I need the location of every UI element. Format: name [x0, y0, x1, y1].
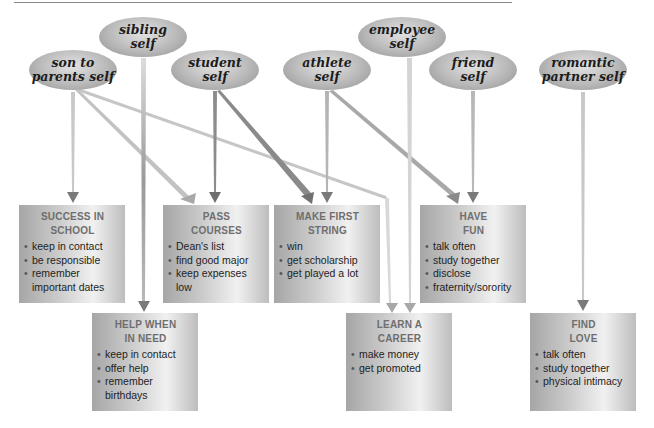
goal-pass-courses: PASSCOURSES Dean's list find good major … [163, 205, 269, 303]
arrow-student-to-pass [213, 91, 217, 192]
self-label-line1: son to [52, 56, 95, 70]
goal-title: FINDLOVE [535, 318, 632, 346]
self-sibling: sibling self [99, 17, 187, 57]
self-label-line2: self [202, 70, 227, 84]
self-label-line2: parents self [32, 70, 115, 84]
goal-item: talk often [535, 348, 632, 362]
arrow-son-to-pass [75, 90, 189, 198]
goal-title: MAKE FIRSTSTRING [279, 210, 376, 238]
goal-title: PASSCOURSES [168, 210, 265, 238]
goal-item: find good major [168, 254, 265, 268]
self-label-line2: self [460, 70, 485, 84]
self-label-line2: self [130, 37, 155, 51]
goal-item: offer help [97, 362, 194, 376]
self-label-line1: romantic [551, 56, 614, 70]
self-student: student self [171, 50, 259, 90]
goal-item: make money [351, 348, 448, 362]
self-label-line2: self [389, 37, 414, 51]
goal-find-love: FINDLOVE talk often study together physi… [530, 313, 636, 411]
self-athlete: athlete self [283, 50, 371, 90]
self-label-line1: student [188, 56, 241, 70]
arrow-romantic-to-love [581, 92, 585, 300]
self-label-line2: self [314, 70, 339, 84]
arrow-employee-to-career [407, 58, 412, 303]
goal-title: HAVEFUN [425, 210, 522, 238]
goal-item: disclose [425, 267, 522, 281]
goal-item: study together [425, 254, 522, 268]
self-friend: friend self [429, 50, 517, 90]
goal-item: fraternity/sorority [425, 281, 522, 295]
goal-item: Dean's list [168, 240, 265, 254]
arrow-friend-to-fun [471, 91, 475, 192]
goal-success-in-school: SUCCESS INSCHOOL keep in contact be resp… [19, 205, 125, 303]
arrow-son-to-success [71, 92, 75, 192]
goal-item: keep expenses low [168, 267, 265, 294]
goal-title: SUCCESS INSCHOOL [24, 210, 121, 238]
goal-item: keep in contact [24, 240, 121, 254]
goal-learn-a-career: LEARN ACAREER make money get promoted [346, 313, 452, 411]
self-label-line1: athlete [302, 56, 351, 70]
goal-item: remember birthdays [97, 375, 194, 402]
goal-item: get promoted [351, 362, 448, 376]
goal-title: LEARN ACAREER [351, 318, 448, 346]
self-label-line1: sibling [119, 23, 167, 37]
arrow-sibling-to-help [141, 58, 146, 301]
self-employee: employee self [358, 17, 446, 57]
self-label-line1: employee [369, 23, 435, 37]
goal-have-fun: HAVEFUN talk often study together disclo… [420, 205, 526, 303]
goal-item: get played a lot [279, 267, 376, 281]
goal-help-when-in-need: HELP WHENIN NEED keep in contact offer h… [92, 313, 198, 411]
goal-item: physical intimacy [535, 375, 632, 389]
goal-item: remember important dates [24, 267, 121, 294]
goal-item: be responsible [24, 254, 121, 268]
self-son-to-parents: son to parents self [29, 50, 117, 90]
goal-make-first-string: MAKE FIRSTSTRING win get scholarship get… [274, 205, 380, 303]
arrow-athlete-to-fun [329, 90, 456, 196]
self-label-line2: partner self [542, 70, 624, 84]
goal-item: get scholarship [279, 254, 376, 268]
goal-title: HELP WHENIN NEED [97, 318, 194, 346]
goal-item: win [279, 240, 376, 254]
goal-item: talk often [425, 240, 522, 254]
self-label-line1: friend [452, 56, 495, 70]
goal-item: keep in contact [97, 348, 194, 362]
goal-item: study together [535, 362, 632, 376]
self-romantic-partner: romantic partner self [539, 50, 627, 90]
